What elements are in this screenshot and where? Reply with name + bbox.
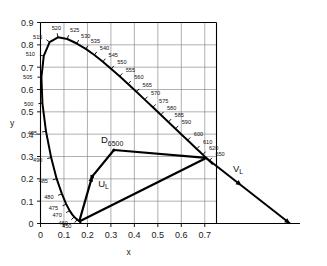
white-point-d6500-subscript: 6500 [108,140,124,147]
wavelength-label: 505 [23,74,32,80]
wavelength-tick [175,126,178,129]
wavelength-tick [153,104,156,107]
tick-label-y: 0.9 [21,18,34,28]
chromaticity-diagram-figure: 00.10.20.30.40.50.60.700.10.20.30.40.50.… [0,0,327,266]
wavelength-tick [71,217,74,220]
tick-label-x: 0.6 [175,230,188,240]
white-point-d6500-marker [112,148,115,151]
v-l-arrow-line [206,158,290,224]
point-v-l-label: VL [233,163,243,175]
tick-label-y: 0.3 [21,152,34,162]
wavelength-label: 620 [209,145,218,151]
wavelength-label: 600 [194,131,203,137]
wavelength-tick [197,146,200,149]
tick-label-y: 0 [28,219,33,229]
wavelength-label: 495 [28,130,37,136]
wavelength-tick [128,81,131,84]
wavelength-tick [145,97,148,100]
tick-label-x: 0 [38,230,43,240]
tick-label-y: 0.8 [21,40,34,50]
data-series [41,37,290,223]
wavelength-tick [161,112,164,115]
wavelength-label: 490 [33,157,42,163]
point-u-l-subscript: L [105,183,109,190]
point-v-l-subscript: L [239,168,243,175]
wavelength-tick [42,131,46,132]
wavelength-label: 565 [143,82,152,88]
wavelength-tick [188,137,191,140]
wavelength-label: 475 [49,205,58,211]
wavelength-label: 520 [52,25,61,31]
wavelength-label: 555 [126,67,135,73]
wavelength-tick [103,59,106,62]
tick-label-y: 0.1 [21,197,34,207]
tick-label-x: 0.4 [128,230,141,240]
wavelength-label: 515 [33,34,42,40]
chromaticity-plot: 00.10.20.30.40.50.60.700.10.20.30.40.50.… [0,0,327,266]
tick-label-y: 0.7 [21,63,34,73]
wavelength-label: 550 [117,59,126,65]
tick-label-y: 0.5 [21,107,34,117]
wavelength-label: 485 [39,178,48,184]
wavelength-label: 510 [26,51,35,57]
tick-label-y: 0.6 [21,85,34,95]
tick-label-x: 0.5 [152,230,165,240]
tick-label-y: 0.2 [21,174,34,184]
wavelength-label: 575 [159,98,168,104]
point-u-l-label: UL [98,178,109,190]
white-point-d6500-label: D6500 [101,134,124,147]
tick-label-x: 0.7 [199,230,212,240]
tick-label-x: 0.2 [81,230,94,240]
wavelength-label: 580 [167,105,176,111]
wavelength-label: 545 [109,52,118,58]
annotated-points: D6500ULVL [90,134,243,190]
wavelength-tick [203,152,206,155]
wavelength-tick [168,119,171,122]
wavelength-label: 525 [70,27,79,33]
wavelength-tick [120,73,123,76]
wavelength-label: 480 [44,194,53,200]
wavelength-label: 590 [182,119,191,125]
axis-title-x: x [126,247,131,257]
wavelength-label: 530 [81,33,90,39]
wavelength-label: 500 [24,101,33,107]
tick-label-x: 0.3 [105,230,118,240]
wavelength-label: 535 [91,38,100,44]
wavelength-label: 540 [100,45,109,51]
tick-label-x: 0.1 [58,230,71,240]
wavelength-tick [75,220,78,223]
wavelength-label: 460 [58,220,67,226]
wavelength-label: 650 [215,151,224,157]
wavelength-tick [46,40,49,42]
axis-title-y: y [10,118,15,128]
wavelength-label: 560 [134,74,143,80]
wavelength-label: 570 [151,90,160,96]
wavelength-tick [94,52,96,55]
wavelength-label: 470 [52,212,61,218]
point-u-l-marker [90,175,93,178]
spectral-locus-curve [41,37,212,222]
wavelength-label: 585 [175,112,184,118]
